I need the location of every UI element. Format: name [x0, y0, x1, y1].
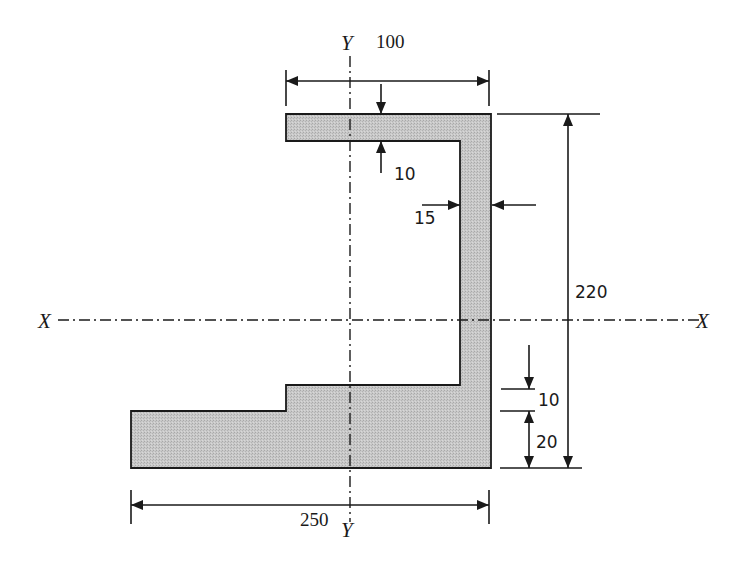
label-220: 220 [575, 282, 607, 302]
label-10-top: 10 [394, 164, 416, 184]
cross-section-diagram: X X Y Y 100 10 15 220 10 20 [0, 0, 749, 564]
dimension-bottom-flange-width: 250 [131, 490, 489, 530]
dimension-step-and-bottom-flange: 10 20 [500, 345, 560, 468]
y-axis-label-top: Y [341, 31, 355, 55]
label-250: 250 [300, 509, 329, 530]
label-100: 100 [376, 31, 405, 52]
y-axis-label-bottom: Y [341, 518, 355, 542]
section-shape [131, 114, 491, 468]
label-20: 20 [536, 432, 558, 452]
x-axis-label-left: X [37, 309, 52, 333]
x-axis-label-right: X [695, 309, 710, 333]
dimension-top-flange-width: 100 [286, 31, 489, 106]
label-10-step: 10 [538, 390, 560, 410]
dimension-overall-height: 220 [497, 114, 607, 468]
label-15: 15 [414, 208, 436, 228]
